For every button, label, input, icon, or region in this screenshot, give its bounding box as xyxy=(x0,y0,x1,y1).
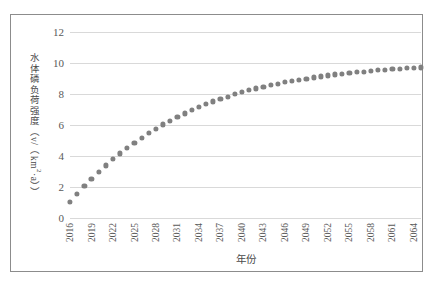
y-axis-tick-label: 10 xyxy=(53,57,64,69)
data-point xyxy=(289,78,294,83)
x-axis-tick-label: 2019 xyxy=(87,223,97,242)
y-axis-tick-label: 6 xyxy=(59,119,65,131)
x-axis-tick-label: 2034 xyxy=(194,223,204,242)
x-axis-tick-label: 2025 xyxy=(130,223,140,242)
plot-area: 121086420 201620192022202520282031203420… xyxy=(70,32,421,218)
x-axis-tick-label: 2061 xyxy=(387,223,397,242)
gridline xyxy=(70,218,421,219)
data-point xyxy=(261,84,266,89)
data-point xyxy=(411,65,416,70)
x-axis-tick-label: 2052 xyxy=(323,223,333,242)
x-axis-tick-label: 2055 xyxy=(344,223,354,242)
data-point xyxy=(96,169,101,174)
data-point xyxy=(304,76,309,81)
data-point xyxy=(404,66,409,71)
data-point xyxy=(225,94,230,99)
data-point xyxy=(218,96,223,101)
data-point xyxy=(282,80,287,85)
data-point xyxy=(82,184,87,189)
y-axis-tick-label: 2 xyxy=(59,181,65,193)
data-point xyxy=(189,108,194,113)
data-point xyxy=(268,83,273,88)
data-point xyxy=(332,72,337,77)
data-point xyxy=(182,111,187,116)
data-point xyxy=(204,102,209,107)
data-point xyxy=(325,73,330,78)
data-series-markers xyxy=(70,32,421,218)
x-axis-tick-label: 2031 xyxy=(172,223,182,242)
data-point xyxy=(211,99,216,104)
data-point xyxy=(153,126,158,131)
data-point xyxy=(139,135,144,140)
data-point xyxy=(175,114,180,119)
y-axis-title: 水体磷负荷强度（v/（km2·a）） xyxy=(27,32,43,218)
data-point xyxy=(125,145,130,150)
x-axis-tick-label: 2028 xyxy=(151,223,161,242)
data-point xyxy=(347,70,352,75)
data-point xyxy=(146,130,151,135)
data-point xyxy=(318,74,323,79)
y-axis-title-text: 水体磷负荷强度（v/（km2·a）） xyxy=(27,53,42,197)
data-point xyxy=(297,77,302,82)
x-axis-tick-label: 2022 xyxy=(108,223,118,242)
data-point xyxy=(340,71,345,76)
x-axis-title: 年份 xyxy=(70,251,421,266)
data-point xyxy=(110,157,115,162)
data-point xyxy=(118,151,123,156)
data-point xyxy=(275,81,280,86)
y-axis-tick-label: 8 xyxy=(59,88,65,100)
x-axis-tick-label: 2016 xyxy=(65,223,75,242)
data-point xyxy=(239,90,244,95)
data-point xyxy=(132,140,137,145)
data-point xyxy=(390,67,395,72)
data-point xyxy=(397,66,402,71)
chart-figure-frame: 水体磷负荷强度（v/（km2·a）） 121086420 20162019202… xyxy=(10,14,423,272)
x-axis-tick-label: 2037 xyxy=(215,223,225,242)
data-point xyxy=(67,200,72,205)
data-point xyxy=(383,67,388,72)
data-point xyxy=(161,122,166,127)
data-point xyxy=(418,65,423,70)
data-point xyxy=(354,70,359,75)
data-point xyxy=(232,92,237,97)
x-axis-tick-label: 2046 xyxy=(280,223,290,242)
y-axis-tick-label: 0 xyxy=(59,212,65,224)
data-point xyxy=(375,68,380,73)
x-axis-tick-label: 2064 xyxy=(409,223,419,242)
x-axis-tick-label: 2043 xyxy=(258,223,268,242)
data-point xyxy=(368,68,373,73)
data-point xyxy=(103,163,108,168)
y-axis-tick-label: 12 xyxy=(53,26,64,38)
data-point xyxy=(246,88,251,93)
x-axis-tick-label: 2058 xyxy=(366,223,376,242)
data-point xyxy=(75,191,80,196)
x-axis-tick-label: 2049 xyxy=(301,223,311,242)
data-point xyxy=(168,118,173,123)
data-point xyxy=(254,86,259,91)
data-point xyxy=(361,69,366,74)
data-point xyxy=(311,75,316,80)
data-point xyxy=(89,176,94,181)
y-axis-tick-label: 4 xyxy=(59,150,65,162)
data-point xyxy=(196,104,201,109)
x-axis-tick-label: 2040 xyxy=(237,223,247,242)
